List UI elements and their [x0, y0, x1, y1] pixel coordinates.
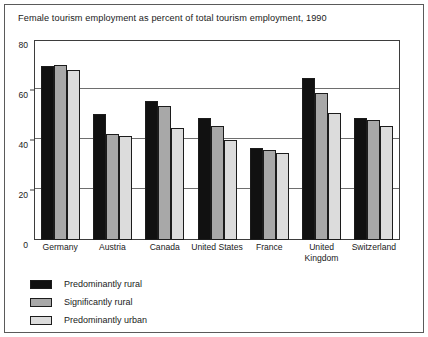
bar: [276, 153, 289, 241]
x-axis: GermanyAustriaCanadaUnited StatesFranceU…: [34, 242, 400, 272]
bar: [106, 134, 119, 240]
bar: [67, 70, 80, 240]
bar-group: [41, 40, 80, 240]
bar: [119, 136, 132, 240]
legend-swatch: [30, 280, 52, 289]
bar: [93, 114, 106, 240]
chart-title: Female tourism employment as percent of …: [18, 12, 408, 24]
legend-item: Predominantly urban: [30, 312, 250, 328]
bar: [224, 140, 237, 240]
x-tick-label: United Kingdom: [295, 242, 347, 263]
bar: [328, 113, 341, 241]
bar: [302, 78, 315, 241]
legend-item: Predominantly rural: [30, 276, 250, 292]
chart-figure: Female tourism employment as percent of …: [0, 0, 428, 337]
bar-group: [354, 40, 393, 240]
bar-group: [250, 40, 289, 240]
bar: [263, 150, 276, 240]
x-tick-label: Canada: [139, 242, 191, 253]
x-tick-label: Germany: [34, 242, 86, 253]
x-tick-label: Austria: [86, 242, 138, 253]
bar: [54, 65, 67, 240]
y-axis: 020406080: [0, 40, 34, 240]
bars-layer: [34, 40, 400, 240]
bar: [354, 118, 367, 241]
bar-group: [302, 40, 341, 240]
bar: [198, 118, 211, 241]
bar: [380, 126, 393, 240]
legend-label: Significantly rural: [64, 297, 133, 307]
legend-item: Significantly rural: [30, 294, 250, 310]
bar-group: [198, 40, 237, 240]
x-tick-label: Switzerland: [348, 242, 400, 253]
bar: [367, 120, 380, 240]
bar: [171, 128, 184, 241]
chart-legend: Predominantly ruralSignificantly ruralPr…: [30, 276, 250, 330]
bar-group: [93, 40, 132, 240]
legend-swatch: [30, 298, 52, 307]
legend-swatch: [30, 316, 52, 325]
legend-label: Predominantly urban: [64, 315, 147, 325]
bar: [211, 126, 224, 240]
legend-label: Predominantly rural: [64, 279, 142, 289]
bar: [145, 101, 158, 240]
bar-group: [145, 40, 184, 240]
bar: [250, 148, 263, 241]
bar: [315, 93, 328, 241]
bar: [158, 106, 171, 240]
x-tick-label: United States: [191, 242, 243, 253]
bar: [41, 66, 54, 240]
x-tick-label: France: [243, 242, 295, 253]
